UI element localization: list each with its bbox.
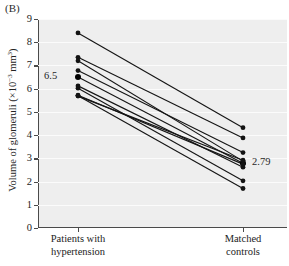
x-category-label: Matchedcontrols [183, 232, 289, 258]
pair-line [78, 71, 243, 153]
y-axis-title-tail-exponent: 3 [6, 52, 14, 56]
x-category-label: Patients withhypertension [18, 232, 138, 258]
data-point [241, 186, 246, 191]
y-tick-mark [34, 228, 38, 229]
data-series-layer [38, 19, 287, 228]
data-point [75, 74, 81, 80]
data-point [76, 94, 81, 99]
data-point [76, 68, 81, 73]
pair-line [78, 33, 243, 128]
data-point [241, 178, 246, 183]
data-point [76, 31, 81, 36]
y-tick-label: 9 [27, 14, 32, 25]
pair-line [78, 88, 243, 181]
y-tick-label: 6 [27, 83, 32, 94]
data-point [76, 58, 81, 63]
plot-area: 0123456789 [38, 19, 287, 228]
y-tick-label: 5 [27, 107, 32, 118]
data-point [241, 150, 246, 155]
figure-panel-b: (B) Volume of glomeruli (×10−3 mm3) 0123… [0, 0, 289, 266]
y-tick-label: 8 [27, 37, 32, 48]
x-category-label-line: controls [183, 245, 289, 258]
y-tick-label: 4 [27, 130, 32, 141]
x-category-label-line: Patients with [18, 232, 138, 245]
data-point [241, 135, 246, 140]
data-point [76, 86, 81, 91]
x-category-label-line: Matched [183, 232, 289, 245]
data-point [241, 158, 246, 163]
y-tick-label: 3 [27, 153, 32, 164]
y-tick-label: 2 [27, 176, 32, 187]
pair-line [78, 96, 243, 189]
pair-line [78, 96, 243, 160]
y-axis-title-close: ) [7, 48, 18, 52]
data-point [241, 125, 246, 130]
mean-controls-annotation: 2.79 [252, 157, 270, 168]
x-category-label-line: hypertension [18, 245, 138, 258]
mean-hypertension-annotation: 6.5 [44, 71, 57, 82]
y-axis-title: Volume of glomeruli (×10−3 mm3) [6, 13, 22, 228]
y-axis-title-tail: mm [7, 55, 18, 74]
y-tick-label: 1 [27, 200, 32, 211]
y-tick-label: 7 [27, 60, 32, 71]
y-axis-title-base: Volume of glomeruli (×10 [7, 82, 18, 192]
y-axis-title-exponent: −3 [6, 74, 14, 81]
